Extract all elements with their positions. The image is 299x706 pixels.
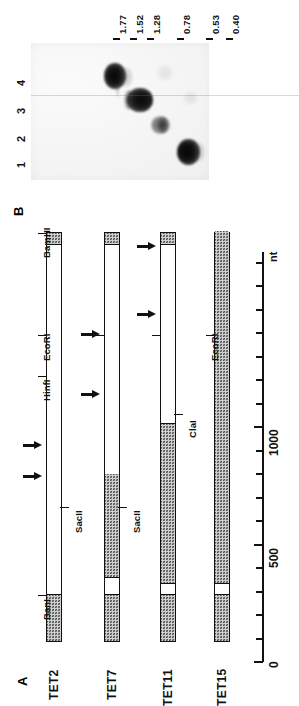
clone-tet15-segment-shaded-low xyxy=(215,595,229,641)
blot-lane-label-4: 4 xyxy=(16,80,27,86)
marker-label-1: 1.77 xyxy=(118,15,128,34)
blot-band-lane4-shoulder xyxy=(119,67,133,87)
marker-tick-5 xyxy=(206,38,213,40)
marker-label-3: 1.28 xyxy=(152,15,162,34)
clone-tet11-cut-low xyxy=(161,594,175,595)
panel-a: BamHI EcoRI HinfI SacII BanI TET2 xyxy=(0,222,289,705)
blot-band-lane3-doublet xyxy=(124,90,134,110)
panel-b: 1.77 1.52 1.28 0.78 0.53 0.40 xyxy=(0,0,289,222)
marker-label-4: 0.78 xyxy=(182,15,192,34)
blot-lane-label-3: 3 xyxy=(16,108,27,114)
clone-tet15-cut-low2 xyxy=(215,583,229,584)
blot-film xyxy=(31,43,209,180)
blot-smudge-1 xyxy=(157,65,173,81)
clone-tet7-cut-low2 xyxy=(105,577,119,578)
enzyme-label-tet2-sacii: SacII xyxy=(74,510,84,533)
enzyme-label-tet2-bani: BanI xyxy=(42,599,52,620)
clone-tet7-segment-shaded-mid xyxy=(105,474,119,578)
arrow-tet7-2 xyxy=(81,390,100,399)
blot-lane-label-2: 2 xyxy=(16,136,27,142)
site-tick-tet7-sacii xyxy=(118,507,127,508)
clone-tet11-segment-shaded-high xyxy=(161,233,175,244)
clone-tet11-cut-clai xyxy=(161,423,175,424)
clone-tet11-segment-open-high xyxy=(161,242,175,424)
marker-label-6: 0.40 xyxy=(231,15,241,34)
arrow-tet11-1 xyxy=(137,242,156,251)
clone-tet2-segment-open xyxy=(47,242,61,595)
enzyme-label-tet2-ecori: EcoRI xyxy=(42,334,52,361)
clone-bar-tet15 xyxy=(214,232,230,642)
clone-tet7-cut-bamhi xyxy=(105,244,119,245)
blot-band-lane2-b xyxy=(158,117,168,133)
marker-label-2: 1.52 xyxy=(135,15,145,34)
marker-tick-3 xyxy=(147,38,154,40)
blot-smudge-2 xyxy=(183,91,198,105)
arrow-tet11-2 xyxy=(137,310,156,319)
arrow-tet2-1 xyxy=(23,441,42,450)
clone-label-tet11: TET11 xyxy=(162,669,174,706)
site-tick-tet11-upper xyxy=(152,335,161,336)
site-tick-tet2-sacii xyxy=(60,507,69,508)
clone-tet7-segment-shaded-high xyxy=(105,233,119,244)
clone-tet11-segment-shaded-low xyxy=(161,595,175,641)
arrow-tet2-2 xyxy=(23,472,42,481)
clone-bar-tet11 xyxy=(160,232,176,642)
site-tick-tet11-clai xyxy=(174,414,183,415)
enzyme-label-tet2-hinfi: HinfI xyxy=(42,379,52,401)
marker-tick-2 xyxy=(130,38,137,40)
marker-tick-4 xyxy=(177,38,184,40)
arrow-tet7-1 xyxy=(81,330,100,339)
clone-label-tet2: TET2 xyxy=(48,669,60,700)
clone-tet7-segment-open xyxy=(105,578,119,595)
clone-bar-tet7 xyxy=(104,232,120,642)
marker-tick-1 xyxy=(113,38,120,40)
blot-band-lane1-shoulder xyxy=(193,142,205,162)
site-tick-tet2-hinfi xyxy=(38,376,47,377)
clone-tet7-segment-shaded-low xyxy=(105,595,119,641)
clone-tet11-segment-shaded-mid xyxy=(161,424,175,584)
clone-label-tet15: TET15 xyxy=(216,668,228,706)
enzyme-label-tet15-ecori: EcoRI xyxy=(210,334,220,361)
clone-bar-tet2 xyxy=(46,232,62,642)
marker-tick-6 xyxy=(226,38,233,40)
clone-tet7-cut-low xyxy=(105,594,119,595)
enzyme-label-tet11-clai: ClaI xyxy=(188,420,198,438)
clone-tet7-segment-open-high xyxy=(105,242,119,474)
clone-tet15-cut-low xyxy=(215,594,229,595)
blot-lane-label-1: 1 xyxy=(16,162,27,168)
panel-b-letter: B xyxy=(12,207,25,216)
enzyme-label-tet7-sacii: SacII xyxy=(132,510,142,533)
marker-label-5: 0.53 xyxy=(211,15,221,34)
clone-tet15-segment-shaded-main xyxy=(215,231,229,584)
clone-tet2-cut-bani xyxy=(47,594,61,595)
site-tick-tet2-bani xyxy=(38,595,47,596)
blot-streak xyxy=(116,85,119,99)
clone-tet11-cut-low2 xyxy=(161,583,175,584)
enzyme-label-tet2-bamhi: BamHI xyxy=(42,227,52,258)
clone-label-tet7: TET7 xyxy=(106,669,118,700)
clone-tet11-cut-bamhi xyxy=(161,244,175,245)
panel-a-letter: A xyxy=(16,677,29,686)
